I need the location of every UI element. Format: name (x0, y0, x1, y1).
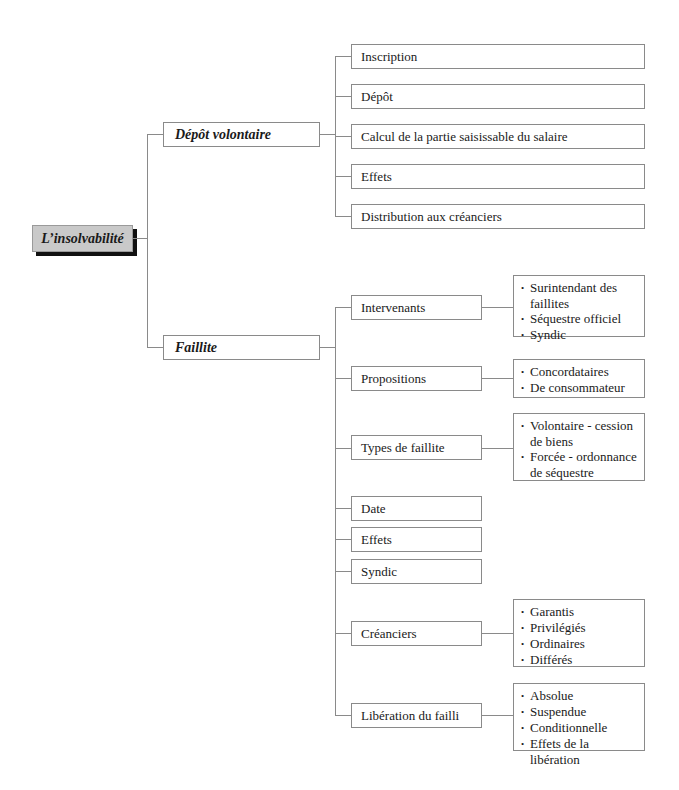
branch-faillite: Faillite (163, 335, 320, 360)
node-label: Dépôt (361, 89, 393, 105)
connector (335, 633, 351, 634)
detail-item: Syndic (521, 327, 638, 343)
node-types-de-faillite: Types de faillite (351, 435, 482, 460)
details-creanciers: Garantis Privilégiés Ordinaires Différés (513, 599, 645, 667)
node-label: Calcul de la partie saisissable du salai… (361, 129, 567, 145)
detail-item: Suspendue (521, 704, 638, 720)
connector (335, 715, 351, 716)
node-label: Distribution aux créanciers (361, 209, 502, 225)
connector (147, 347, 163, 348)
detail-item: Ordinaires (521, 636, 638, 652)
node-propositions: Propositions (351, 366, 482, 391)
node-label: Date (361, 501, 386, 517)
connector (335, 216, 351, 217)
connector (147, 134, 163, 135)
connector (335, 96, 351, 97)
node-label: Effets (361, 532, 392, 548)
node-liberation-du-failli: Libération du failli (351, 703, 482, 728)
connector (335, 571, 351, 572)
node-label: Types de faillite (361, 440, 445, 456)
connector (335, 136, 351, 137)
connector (482, 715, 513, 716)
node-depot: Dépôt (351, 84, 645, 109)
detail-item: Privilégiés (521, 620, 638, 636)
connector (320, 134, 335, 135)
detail-item: Séquestre officiel (521, 311, 638, 327)
connector (335, 56, 351, 57)
connector (335, 176, 351, 177)
connector (335, 448, 351, 449)
detail-item: Effets de la libération (521, 736, 638, 767)
node-effets: Effets (351, 164, 645, 189)
connector (335, 378, 351, 379)
details-types-de-faillite: Volontaire - cession de biens Forcée - o… (513, 413, 645, 481)
detail-item: De consommateur (521, 380, 638, 396)
node-label: Syndic (361, 564, 397, 580)
node-effets-faillite: Effets (351, 527, 482, 552)
details-propositions: Concordataires De consommateur (513, 359, 645, 398)
detail-item: Absolue (521, 688, 638, 704)
connector (482, 448, 513, 449)
connector (482, 378, 513, 379)
node-syndic: Syndic (351, 559, 482, 584)
node-label: Effets (361, 169, 392, 185)
node-calcul-partie-saisissable: Calcul de la partie saisissable du salai… (351, 124, 645, 149)
node-label: Intervenants (361, 300, 425, 316)
node-label: Inscription (361, 49, 417, 65)
node-creanciers: Créanciers (351, 621, 482, 646)
detail-item: Concordataires (521, 364, 638, 380)
connector (335, 307, 351, 308)
detail-item: Surintendant des faillites (521, 280, 638, 311)
details-liberation: Absolue Suspendue Conditionnelle Effets … (513, 683, 645, 751)
node-label: Libération du failli (361, 708, 459, 724)
detail-item: Forcée - ordonnance de séquestre (521, 449, 638, 480)
connector (335, 508, 351, 509)
detail-item: Garantis (521, 604, 638, 620)
root-label: L’insolvabilité (41, 231, 123, 247)
connector (133, 238, 147, 239)
node-distribution-creanciers: Distribution aux créanciers (351, 204, 645, 229)
connector (335, 539, 351, 540)
branch-depot-volontaire: Dépôt volontaire (163, 122, 320, 147)
root-node: L’insolvabilité (32, 225, 133, 252)
detail-item: Différés (521, 652, 638, 668)
connector (482, 307, 513, 308)
branch-label: Faillite (175, 340, 217, 356)
connector (320, 347, 335, 348)
detail-item: Conditionnelle (521, 720, 638, 736)
detail-item: Volontaire - cession de biens (521, 418, 638, 449)
branch-label: Dépôt volontaire (175, 127, 271, 143)
connector (482, 633, 513, 634)
node-label: Propositions (361, 371, 426, 387)
node-label: Créanciers (361, 626, 417, 642)
node-intervenants: Intervenants (351, 295, 482, 320)
details-intervenants: Surintendant des faillites Séquestre off… (513, 275, 645, 337)
node-inscription: Inscription (351, 44, 645, 69)
connector (335, 307, 336, 715)
connector (147, 134, 148, 348)
node-date: Date (351, 496, 482, 521)
